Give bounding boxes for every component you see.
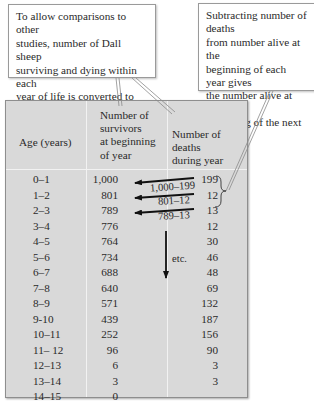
arrow-icon xyxy=(135,209,194,213)
arrow-icon xyxy=(135,194,194,198)
leader-lines xyxy=(116,78,273,191)
brace-icon xyxy=(215,176,226,207)
diagram-overlay xyxy=(0,0,314,402)
calculation-arrows xyxy=(135,178,194,278)
arrow-icon xyxy=(135,178,194,183)
